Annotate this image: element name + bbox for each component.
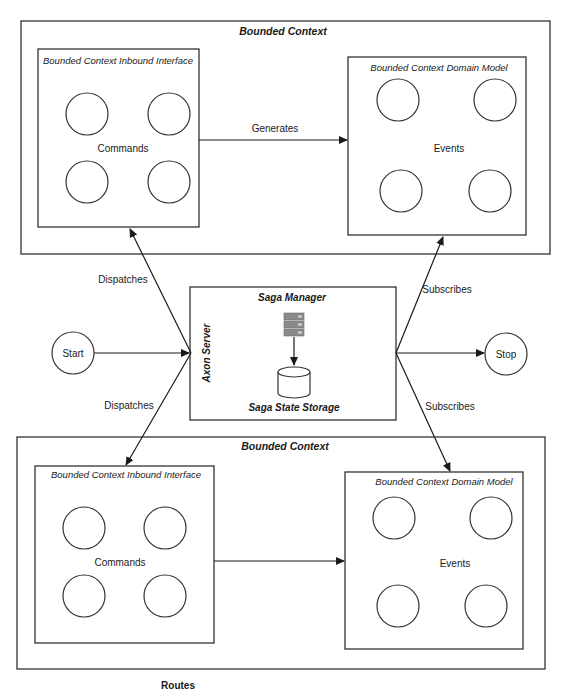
start-label: Start — [62, 348, 83, 359]
saga-state-storage-label: Saga State Storage — [248, 402, 340, 413]
bottom-commands-label: Commands — [94, 557, 145, 568]
bottom-context-title: Bounded Context — [241, 440, 329, 452]
saga-manager-title: Saga Manager — [258, 292, 327, 303]
event-circle — [474, 79, 516, 121]
top-events-label: Events — [434, 143, 465, 154]
bottom-bounded-context: Bounded Context Bounded Context Inbound … — [17, 437, 545, 669]
event-circle — [470, 497, 512, 539]
event-circle — [373, 497, 415, 539]
bottom-events-label: Events — [440, 558, 471, 569]
subscribes-bottom-arrow — [396, 353, 450, 471]
bottom-inbound-title: Bounded Context Inbound Interface — [51, 469, 201, 480]
command-circle — [144, 575, 186, 617]
dispatches-top-label: Dispatches — [98, 274, 147, 285]
bottom-inbound-interface: Bounded Context Inbound Interface Comman… — [35, 466, 214, 643]
top-inbound-interface: Bounded Context Inbound Interface Comman… — [38, 49, 199, 227]
top-bounded-context: Bounded Context Bounded Context Inbound … — [21, 21, 550, 254]
axon-server-label: Axon Server — [201, 322, 212, 383]
event-circle — [380, 170, 422, 212]
stop-label: Stop — [496, 349, 517, 360]
database-cylinder-icon — [278, 367, 310, 398]
command-circle — [63, 507, 105, 549]
bottom-domain-title: Bounded Context Domain Model — [375, 476, 513, 487]
dispatches-bottom-label: Dispatches — [104, 400, 153, 411]
routes-caption: Routes — [161, 680, 195, 691]
server-stack-icon — [284, 313, 304, 336]
stop-node: Stop — [485, 333, 527, 375]
command-circle — [144, 507, 186, 549]
subscribes-bottom-label: Subscribes — [425, 401, 474, 412]
command-circle — [63, 575, 105, 617]
dispatches-top-arrow — [130, 229, 191, 353]
event-circle — [465, 585, 507, 627]
command-circle — [148, 93, 190, 135]
diagram-canvas: Bounded Context Bounded Context Inbound … — [0, 0, 564, 696]
bottom-domain-model: Bounded Context Domain Model Events — [345, 472, 523, 649]
start-node: Start — [52, 332, 94, 374]
event-circle — [377, 585, 419, 627]
event-circle — [469, 170, 511, 212]
axon-server-box: Axon Server Saga Manager Saga State Stor… — [190, 287, 396, 420]
top-domain-title: Bounded Context Domain Model — [370, 62, 508, 73]
command-circle — [66, 93, 108, 135]
event-circle — [377, 79, 419, 121]
subscribes-top-label: Subscribes — [422, 284, 471, 295]
command-circle — [148, 161, 190, 203]
top-commands-label: Commands — [97, 143, 148, 154]
top-inbound-title: Bounded Context Inbound Interface — [43, 55, 193, 66]
top-context-title: Bounded Context — [239, 25, 327, 37]
top-domain-model: Bounded Context Domain Model Events — [348, 57, 526, 235]
generates-label: Generates — [252, 123, 299, 134]
command-circle — [66, 161, 108, 203]
